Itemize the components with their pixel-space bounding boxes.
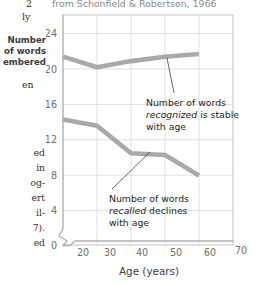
y-tick-8: 8 xyxy=(51,170,57,181)
y-tick-4: 4 xyxy=(51,205,57,216)
recognized-annotation-line3: with age xyxy=(146,121,186,132)
x-axis-title: Age (years) xyxy=(119,265,179,277)
margin-fragment-bottom-3: ert xyxy=(1,193,45,203)
recalled-annotation-line1: Number of words xyxy=(109,193,189,204)
recalled-annotation-emphasis: recalled xyxy=(109,205,146,216)
margin-fragment-top-1: ly xyxy=(22,12,30,23)
recalled-annotation-line2-rest: declines xyxy=(146,205,187,216)
margin-fragment-bottom-5: 7). xyxy=(1,223,45,233)
margin-fragment-bottom-4: il- xyxy=(1,208,45,218)
margin-caption-line-0: Number xyxy=(0,36,46,46)
recognized-annotation-line2: recognized is stable xyxy=(146,109,239,120)
margin-fragment-bottom-1: in xyxy=(1,163,45,173)
x-tick-40: 40 xyxy=(136,247,148,258)
x-tick-20: 20 xyxy=(77,247,89,258)
figure-page: from Schonfield & Robertson, 1966 2 ly N… xyxy=(0,0,259,286)
y-tick-16: 16 xyxy=(46,99,57,110)
recognized-annotation-emphasis: recognized xyxy=(146,109,197,120)
y-tick-24: 24 xyxy=(46,28,57,39)
margin-caption-line-1: of words xyxy=(0,47,46,57)
margin-caption-line-2: embered xyxy=(0,58,46,68)
y-tick-20: 20 xyxy=(46,64,57,75)
x-tick-30: 30 xyxy=(104,247,116,258)
page-margin-column: 2 ly Number of words embered en ed in og… xyxy=(0,0,46,286)
margin-fragment-bottom-2: og- xyxy=(1,178,45,188)
y-axis-tick-labels: 0 4 8 12 16 20 24 xyxy=(46,28,57,250)
margin-fragment-bottom-6: ed xyxy=(1,238,45,248)
x-tick-60: 60 xyxy=(204,247,216,258)
x-tick-50: 50 xyxy=(170,247,182,258)
recognized-annotation-line2-rest: is stable xyxy=(197,109,239,120)
y-tick-0: 0 xyxy=(51,240,57,251)
x-tick-70: 70 xyxy=(235,245,247,256)
y-tick-12: 12 xyxy=(46,134,57,145)
recognized-annotation-line1: Number of words xyxy=(146,97,226,108)
line-chart: 0 4 8 12 16 20 24 20 30 40 50 60 70 Age … xyxy=(46,0,259,286)
margin-fragment-bottom-0: ed xyxy=(1,148,45,158)
margin-fragment-top-0: 2 xyxy=(26,0,32,10)
recalled-annotation-line2: recalled declines xyxy=(109,205,188,216)
recalled-annotation-line3: with age xyxy=(109,217,149,228)
margin-fragment-top-2: en xyxy=(22,80,34,91)
chart-svg: 0 4 8 12 16 20 24 20 30 40 50 60 70 Age … xyxy=(46,0,259,286)
x-axis-tick-labels: 20 30 40 50 60 70 xyxy=(77,245,247,258)
